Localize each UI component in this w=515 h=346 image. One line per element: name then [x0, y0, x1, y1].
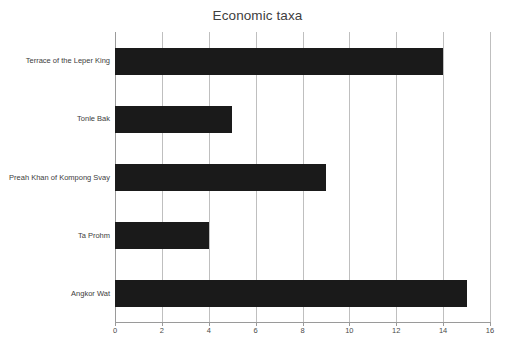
- gridline-x-14: [443, 32, 444, 323]
- x-tick-mark-16: [490, 322, 491, 326]
- gridline-x-16: [490, 32, 491, 323]
- x-tick-label-10: 10: [345, 326, 353, 335]
- bar: [115, 164, 326, 191]
- y-axis-category-labels: Terrace of the Leper KingTonle BakPreah …: [0, 32, 110, 323]
- x-tick-label-12: 12: [392, 326, 400, 335]
- x-tick-mark-12: [396, 322, 397, 326]
- bar-chart: Economic taxa Terrace of the Leper KingT…: [0, 0, 515, 346]
- chart-title: Economic taxa: [0, 8, 515, 23]
- x-tick-mark-8: [303, 322, 304, 326]
- y-axis-label: Ta Prohm: [2, 231, 110, 240]
- x-tick-label-0: 0: [113, 326, 117, 335]
- y-axis-label: Preah Khan of Kompong Svay: [2, 173, 110, 182]
- x-tick-mark-0: [115, 322, 116, 326]
- gridline-x-12: [396, 32, 397, 323]
- x-tick-mark-10: [349, 322, 350, 326]
- x-tick-label-16: 16: [486, 326, 494, 335]
- plot-area: [115, 32, 490, 323]
- x-tick-mark-4: [209, 322, 210, 326]
- y-axis-label: Terrace of the Leper King: [2, 56, 110, 65]
- x-tick-mark-14: [443, 322, 444, 326]
- x-tick-mark-2: [162, 322, 163, 326]
- bar: [115, 106, 232, 133]
- y-axis-label: Angkor Wat: [2, 289, 110, 298]
- y-axis-label: Tonle Bak: [2, 114, 110, 123]
- x-axis-tick-labels: 0246810121416: [115, 326, 491, 342]
- x-tick-mark-6: [256, 322, 257, 326]
- x-tick-label-4: 4: [207, 326, 211, 335]
- x-tick-label-2: 2: [160, 326, 164, 335]
- x-tick-label-14: 14: [439, 326, 447, 335]
- gridline-x-10: [349, 32, 350, 323]
- x-tick-label-8: 8: [300, 326, 304, 335]
- bar: [115, 48, 443, 75]
- bar: [115, 280, 467, 307]
- x-tick-label-6: 6: [254, 326, 258, 335]
- bar: [115, 222, 209, 249]
